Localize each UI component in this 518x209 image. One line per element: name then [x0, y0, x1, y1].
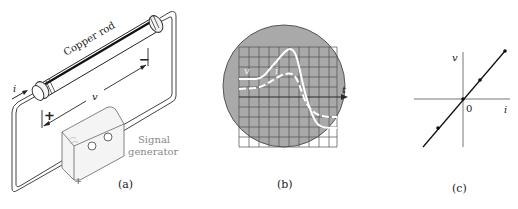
time-axis-label: t	[342, 84, 347, 95]
terminal-knob-left	[88, 142, 96, 150]
generator-plus-label: +	[74, 175, 82, 186]
i-axis-label: i	[504, 104, 507, 115]
voltage-trace-label: v	[244, 65, 250, 76]
data-point	[461, 97, 465, 101]
terminal-knob-right	[104, 133, 112, 141]
data-point	[503, 49, 507, 53]
caption-a: (a)	[118, 178, 133, 191]
voltage-label: v	[92, 91, 98, 102]
panel-a: Copper rod i v + − Signal g	[0, 0, 180, 209]
origin-label: 0	[466, 103, 472, 114]
oscilloscope-screen: t v i	[180, 0, 360, 209]
generator-label-line2: generator	[128, 146, 178, 157]
panel-b: t v i (b)	[180, 0, 360, 209]
signal-generator	[62, 107, 124, 180]
caption-b: (b)	[277, 178, 293, 191]
plus-terminal-label: +	[44, 108, 55, 123]
panel-c: v i 0 (c)	[360, 0, 518, 209]
current-trace-label: i	[275, 65, 278, 76]
caption-c: (c)	[452, 182, 467, 195]
minus-terminal-label: −	[139, 52, 150, 67]
data-point	[478, 78, 482, 82]
data-point	[436, 126, 440, 130]
generator-label-line1: Signal	[138, 134, 170, 145]
v-axis-label: v	[452, 52, 458, 63]
v-i-graph: v i 0	[360, 0, 518, 209]
current-label: i	[13, 83, 16, 94]
copper-rod-circuit-illustration: Copper rod i v + − Signal g	[0, 0, 180, 209]
